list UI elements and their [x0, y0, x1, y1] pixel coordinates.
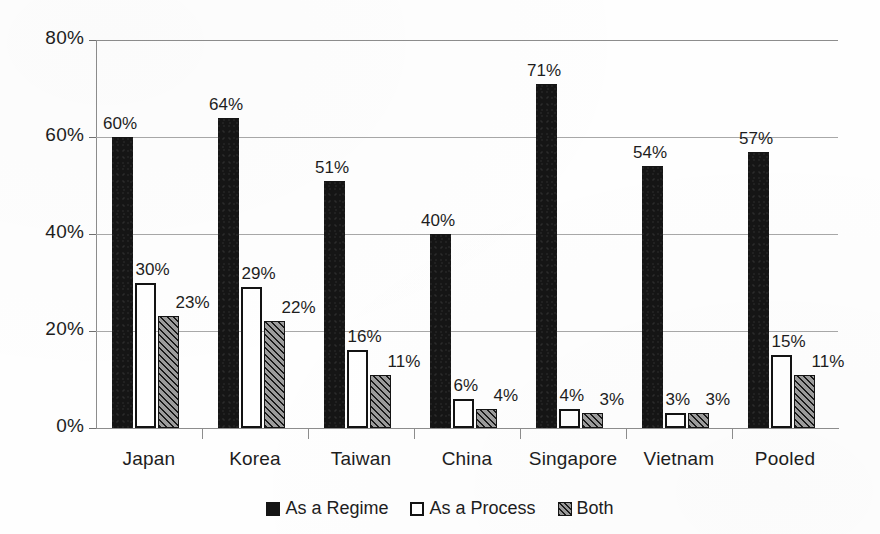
- bar-value-label: 51%: [315, 158, 349, 178]
- x-axis-category-label: Pooled: [732, 448, 838, 470]
- bar: [158, 316, 179, 428]
- bar: [264, 321, 285, 428]
- y-tick-20: [89, 331, 96, 332]
- bar-value-label: 15%: [772, 332, 806, 352]
- x-tick-separator: [202, 428, 203, 439]
- legend-item: As a Process: [410, 498, 535, 519]
- bar-group: 51%16%11%: [308, 40, 414, 428]
- x-axis-category-label: Singapore: [520, 448, 626, 470]
- bar: [748, 152, 769, 428]
- bar-value-label: 57%: [739, 129, 773, 149]
- bar: [135, 283, 156, 429]
- bar-value-label: 3%: [600, 390, 625, 410]
- y-axis-labels: 0%20%40%60%80%: [0, 0, 84, 534]
- x-axis-category-label: China: [414, 448, 520, 470]
- bar-value-label: 60%: [103, 114, 137, 134]
- bar-value-label: 54%: [633, 143, 667, 163]
- bar: [771, 355, 792, 428]
- plot-area: 60%30%23%64%29%22%51%16%11%40%6%4%71%4%3…: [96, 40, 838, 428]
- bar: [642, 166, 663, 428]
- x-axis-category-label: Vietnam: [626, 448, 732, 470]
- bar-group: 64%29%22%: [202, 40, 308, 428]
- bar-group: 40%6%4%: [414, 40, 520, 428]
- bar: [559, 409, 580, 428]
- hatched-swatch: [558, 502, 572, 516]
- bar: [453, 399, 474, 428]
- y-axis-label-80: 80%: [4, 27, 84, 49]
- chart-legend: As a RegimeAs a ProcessBoth: [0, 498, 880, 519]
- legend-label: Both: [577, 498, 614, 519]
- y-axis-label-20: 20%: [4, 318, 84, 340]
- bar-group: 71%4%3%: [520, 40, 626, 428]
- bar-chart: 0%20%40%60%80% 60%30%23%64%29%22%51%16%1…: [0, 0, 880, 534]
- bar-group: 57%15%11%: [732, 40, 838, 428]
- bar: [582, 413, 603, 428]
- bar: [218, 118, 239, 428]
- bar: [324, 181, 345, 428]
- legend-item: As a Regime: [266, 498, 388, 519]
- legend-item: Both: [558, 498, 614, 519]
- bar-value-label: 29%: [242, 264, 276, 284]
- x-axis-line: [96, 428, 839, 429]
- bar: [347, 350, 368, 428]
- bar-value-label: 4%: [494, 386, 519, 406]
- bar-value-label: 4%: [560, 386, 585, 406]
- y-axis-label-40: 40%: [4, 221, 84, 243]
- solid-black-swatch: [266, 502, 280, 516]
- y-axis-label-60: 60%: [4, 124, 84, 146]
- bar-value-label: 16%: [348, 327, 382, 347]
- y-tick-40: [89, 234, 96, 235]
- bar-value-label: 3%: [666, 390, 691, 410]
- x-axis-category-label: Korea: [202, 448, 308, 470]
- x-axis-category-label: Taiwan: [308, 448, 414, 470]
- bar: [536, 84, 557, 428]
- bar: [370, 375, 391, 428]
- bar: [241, 287, 262, 428]
- x-tick-separator: [308, 428, 309, 439]
- bar-value-label: 3%: [706, 390, 731, 410]
- bar: [112, 137, 133, 428]
- x-tick-separator: [626, 428, 627, 439]
- bar-value-label: 30%: [136, 260, 170, 280]
- bar-group: 60%30%23%: [96, 40, 202, 428]
- y-tick-0: [89, 428, 96, 429]
- legend-label: As a Regime: [285, 498, 388, 519]
- y-axis-label-0: 0%: [4, 415, 84, 437]
- white-outlined-swatch: [410, 502, 424, 516]
- y-tick-80: [89, 40, 96, 41]
- bar-value-label: 40%: [421, 211, 455, 231]
- bar: [688, 413, 709, 428]
- x-tick-separator: [732, 428, 733, 439]
- x-tick-separator: [414, 428, 415, 439]
- bar-value-label: 71%: [527, 61, 561, 81]
- bar: [476, 409, 497, 428]
- bar-value-label: 64%: [209, 95, 243, 115]
- bar: [794, 375, 815, 428]
- bar: [665, 413, 686, 428]
- bar-group: 54%3%3%: [626, 40, 732, 428]
- legend-label: As a Process: [429, 498, 535, 519]
- x-axis-category-label: Japan: [96, 448, 202, 470]
- x-tick-separator: [520, 428, 521, 439]
- bar-value-label: 6%: [454, 376, 479, 396]
- bar-value-label: 11%: [812, 352, 845, 372]
- bar: [430, 234, 451, 428]
- y-tick-60: [89, 137, 96, 138]
